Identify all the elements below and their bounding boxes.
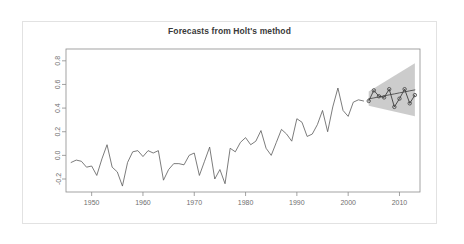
- chart-screenshot: Forecasts from Holt's method -0.20.00.20…: [0, 0, 464, 244]
- y-axis-tick-label: 0.6: [55, 79, 62, 89]
- x-axis-tick-label: 1960: [135, 199, 151, 206]
- plot-frame: [66, 49, 420, 192]
- y-axis: -0.20.00.20.40.60.8: [55, 56, 67, 185]
- y-axis-tick-label: -0.2: [55, 173, 62, 185]
- historical-series-line: [71, 88, 363, 186]
- forecast-plot: -0.20.00.20.40.60.8 19501960197019801990…: [0, 0, 464, 244]
- x-axis-tick-label: 1990: [289, 199, 305, 206]
- y-axis-tick-label: 0.0: [55, 150, 62, 160]
- x-axis-tick-label: 2000: [340, 199, 356, 206]
- x-axis-tick-label: 1950: [84, 199, 100, 206]
- x-axis: 1950196019701980199020002010: [84, 192, 408, 206]
- y-axis-tick-label: 0.8: [55, 56, 62, 66]
- x-axis-tick-label: 2010: [392, 199, 408, 206]
- x-axis-tick-label: 1980: [238, 199, 254, 206]
- x-axis-tick-label: 1970: [186, 199, 202, 206]
- y-axis-tick-label: 0.2: [55, 127, 62, 137]
- y-axis-tick-label: 0.4: [55, 103, 62, 113]
